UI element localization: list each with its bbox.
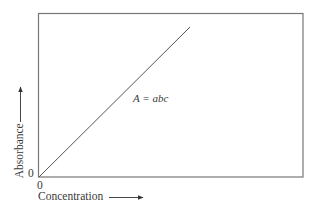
y-origin-tick-label: 0: [28, 168, 34, 180]
plot-frame: [39, 14, 304, 178]
y-axis-label: Absorbance: [14, 123, 26, 179]
chart-canvas: [0, 0, 319, 213]
equation-annotation: A = abc: [133, 93, 168, 104]
x-axis-label: Concentration: [38, 191, 103, 203]
